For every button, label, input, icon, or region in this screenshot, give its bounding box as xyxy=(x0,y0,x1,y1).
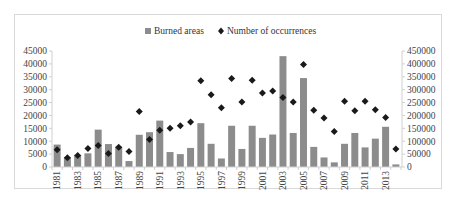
right-tick-label: 150000 xyxy=(407,124,436,134)
bar xyxy=(290,133,297,167)
data-point-diamond xyxy=(269,87,276,94)
data-point-diamond xyxy=(84,145,91,152)
x-tick-label: 2007 xyxy=(319,171,329,190)
x-tick-label: 2003 xyxy=(278,171,288,190)
bar xyxy=(362,147,369,167)
x-tick-label: 1993 xyxy=(176,171,186,190)
data-point-diamond xyxy=(167,125,174,132)
data-point-diamond xyxy=(372,106,379,113)
left-tick-label: 20000 xyxy=(23,111,47,121)
bar xyxy=(125,161,132,167)
left-tick-label: 5000 xyxy=(28,149,47,159)
data-point-diamond xyxy=(331,128,338,135)
bar xyxy=(228,126,235,167)
bar xyxy=(300,78,307,167)
combo-chart: Burned areasNumber of occurrences 050001… xyxy=(0,0,456,207)
bar xyxy=(208,144,215,167)
x-tick-label: 1999 xyxy=(237,171,247,190)
left-tick-label: 35000 xyxy=(23,72,47,82)
x-tick-label: 1995 xyxy=(196,171,206,190)
bar xyxy=(249,126,256,167)
x-tick-label: 2005 xyxy=(299,171,309,190)
data-point-diamond xyxy=(136,108,143,115)
chart-legend: Burned areasNumber of occurrences xyxy=(145,26,316,36)
bar xyxy=(84,153,91,167)
bar xyxy=(331,162,338,167)
legend-square-icon xyxy=(145,28,151,34)
burned-areas-bars xyxy=(54,56,400,167)
bar xyxy=(372,139,379,167)
legend-label-occurrences: Number of occurrences xyxy=(227,26,316,36)
x-tick-label: 1997 xyxy=(217,171,227,190)
data-point-diamond xyxy=(321,115,328,122)
legend-diamond-icon xyxy=(218,28,224,35)
left-tick-label: 40000 xyxy=(23,59,47,69)
bar xyxy=(218,158,225,167)
left-tick-label: 15000 xyxy=(23,124,47,134)
data-point-diamond xyxy=(197,77,204,84)
bar xyxy=(259,138,266,167)
x-tick-label: 1985 xyxy=(93,171,103,190)
data-point-diamond xyxy=(351,107,358,114)
data-point-diamond xyxy=(218,104,225,111)
right-tick-label: 300000 xyxy=(407,85,436,95)
data-point-diamond xyxy=(290,99,297,106)
bar xyxy=(197,123,204,167)
x-tick-label: 1981 xyxy=(52,171,62,190)
data-point-diamond xyxy=(300,61,307,68)
data-point-diamond xyxy=(238,99,245,106)
bar xyxy=(279,56,286,167)
bar xyxy=(167,152,174,167)
right-tick-label: 100000 xyxy=(407,137,436,147)
data-point-diamond xyxy=(177,122,184,129)
bar xyxy=(341,144,348,167)
x-tick-label: 2009 xyxy=(340,171,350,190)
bar xyxy=(136,135,143,167)
bar xyxy=(351,133,358,167)
left-y-axis: 0500010000150002000025000300003500040000… xyxy=(23,46,52,172)
x-tick-label: 1987 xyxy=(114,171,124,190)
data-point-diamond xyxy=(187,118,194,125)
left-tick-label: 25000 xyxy=(23,98,47,108)
data-point-diamond xyxy=(228,75,235,82)
data-point-diamond xyxy=(382,114,389,121)
bar xyxy=(269,135,276,167)
right-tick-label: 0 xyxy=(407,162,412,172)
data-point-diamond xyxy=(310,107,317,114)
right-y-axis: 0500001000001500002000002500003000003500… xyxy=(402,46,436,172)
data-point-diamond xyxy=(362,98,369,105)
bar xyxy=(187,148,194,167)
left-tick-label: 45000 xyxy=(23,46,47,56)
data-point-diamond xyxy=(341,98,348,105)
bar xyxy=(238,149,245,167)
x-axis: 1981198319851987198919911993199519971999… xyxy=(52,167,402,190)
data-point-diamond xyxy=(392,145,399,152)
right-tick-label: 200000 xyxy=(407,111,436,121)
data-point-diamond xyxy=(249,77,256,84)
x-tick-label: 2001 xyxy=(258,171,268,190)
bar xyxy=(177,154,184,167)
bar xyxy=(310,147,317,167)
right-tick-label: 450000 xyxy=(407,46,436,56)
x-tick-label: 1991 xyxy=(155,171,165,190)
x-tick-label: 2011 xyxy=(360,171,370,190)
left-tick-label: 10000 xyxy=(23,137,47,147)
x-tick-label: 1989 xyxy=(135,171,145,190)
data-point-diamond xyxy=(208,91,215,98)
legend-label-burned: Burned areas xyxy=(154,26,204,36)
bar xyxy=(382,127,389,167)
left-tick-label: 0 xyxy=(42,162,47,172)
x-tick-label: 1983 xyxy=(73,171,83,190)
right-tick-label: 350000 xyxy=(407,72,436,82)
x-tick-label: 2013 xyxy=(381,171,391,190)
left-tick-label: 30000 xyxy=(23,85,47,95)
data-point-diamond xyxy=(259,90,266,97)
right-tick-label: 50000 xyxy=(407,149,431,159)
data-point-diamond xyxy=(125,148,132,155)
right-tick-label: 400000 xyxy=(407,59,436,69)
right-tick-label: 250000 xyxy=(407,98,436,108)
bar xyxy=(321,157,328,167)
